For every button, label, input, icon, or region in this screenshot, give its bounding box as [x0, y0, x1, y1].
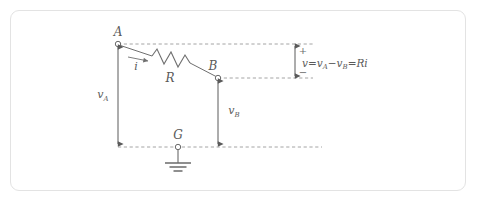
voltage-drop-equation: v=vA−vB=Ri — [302, 57, 368, 71]
v-b-label: vB — [228, 104, 239, 119]
svg-text:v=vA−vB=Ri: v=vA−vB=Ri — [302, 57, 368, 71]
current-direction-arrow — [128, 57, 148, 61]
node-ground-marker — [175, 144, 180, 149]
svg-text:vB: vB — [228, 104, 239, 119]
eq-equals-1: = — [308, 57, 317, 69]
ground-symbol-icon — [165, 150, 191, 171]
figure-root: A B G R i vA vB + − v=vA−vB=Ri — [0, 0, 484, 205]
node-b-label: B — [208, 59, 218, 73]
svg-text:vA: vA — [97, 88, 108, 103]
circuit-diagram: A B G R i vA vB + − v=vA−vB=Ri — [0, 0, 484, 205]
resistor-label: R — [164, 71, 174, 85]
node-a-marker — [115, 41, 120, 46]
eq-equals-2: = — [348, 57, 357, 69]
current-label: i — [134, 60, 138, 73]
eq-minus: − — [328, 57, 337, 69]
v-a-label: vA — [97, 88, 108, 103]
node-a-label: A — [113, 25, 123, 39]
v-b-subscript: B — [234, 111, 240, 119]
polarity-plus-label: + — [299, 45, 307, 56]
dashed-level-lines — [118, 44, 322, 147]
resistor-zigzag-icon — [152, 49, 190, 67]
eq-result: Ri — [355, 57, 367, 69]
node-b-marker — [215, 75, 220, 80]
wire-segment-left — [119, 45, 152, 56]
node-ground-label: G — [173, 128, 183, 142]
v-a-subscript: A — [103, 95, 109, 103]
